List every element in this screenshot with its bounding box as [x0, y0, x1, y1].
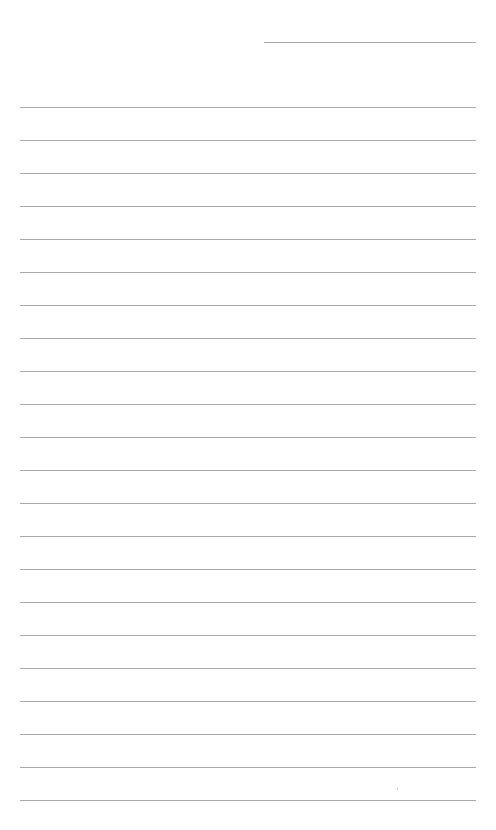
ruled-line [20, 371, 476, 372]
ruled-line [20, 173, 476, 174]
header-line [264, 42, 476, 43]
ruled-line [20, 140, 476, 141]
ruled-line [20, 800, 476, 801]
ruled-line [20, 338, 476, 339]
ruled-line [20, 107, 476, 108]
ruled-line [20, 437, 476, 438]
ruled-line [20, 305, 476, 306]
ruled-line [20, 536, 476, 537]
ruled-line [20, 701, 476, 702]
ruled-line [20, 272, 476, 273]
ruled-line [20, 668, 476, 669]
ruled-line [20, 470, 476, 471]
ruled-line [20, 635, 476, 636]
ruled-line [20, 503, 476, 504]
ruled-line [20, 239, 476, 240]
ruled-line [20, 734, 476, 735]
ruled-line [20, 206, 476, 207]
ruled-line [20, 767, 476, 768]
ruled-line [20, 404, 476, 405]
paper-speck [397, 788, 398, 790]
ruled-line [20, 569, 476, 570]
lined-page [0, 0, 496, 830]
ruled-line [20, 602, 476, 603]
